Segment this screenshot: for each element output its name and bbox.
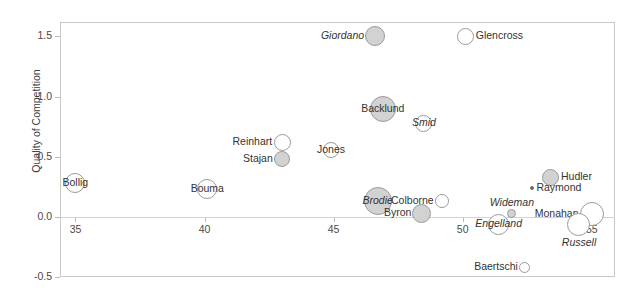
x-tick-label: 45 (314, 223, 354, 235)
point-label-baertschi: Baertschi (474, 261, 518, 272)
zero-gridline (60, 217, 615, 218)
point-label-engelland: Engelland (475, 218, 522, 229)
bubble-baertschi[interactable] (519, 262, 530, 273)
bubble-stajan[interactable] (274, 151, 290, 167)
y-tick-label: -0.5 (12, 270, 52, 282)
y-tick-mark (55, 97, 60, 98)
point-label-bollig: Bollig (62, 177, 88, 188)
y-tick-mark (55, 277, 60, 278)
point-label-bouma: Bouma (191, 183, 224, 194)
point-label-giordano: Giordano (321, 30, 364, 41)
point-label-glencross: Glencross (476, 30, 523, 41)
point-label-backlund: Backlund (361, 103, 404, 114)
y-tick-label: 0.5 (12, 150, 52, 162)
point-label-brodie: Brodie (363, 195, 393, 206)
y-tick-mark (55, 157, 60, 158)
bubble-byron[interactable] (412, 204, 431, 223)
y-axis-label: Quality of Competition (30, 41, 42, 201)
point-label-smid: Smid (412, 117, 436, 128)
point-label-jones: Jones (317, 144, 345, 155)
y-tick-label: 1.0 (12, 90, 52, 102)
point-label-wideman: Wideman (490, 197, 534, 208)
x-tick-label: 40 (185, 223, 225, 235)
bubble-reinhart[interactable] (274, 134, 291, 151)
bubble-glencross[interactable] (457, 28, 474, 45)
point-label-reinhart: Reinhart (233, 136, 273, 147)
point-label-russell: Russell (562, 237, 596, 248)
y-tick-label: 0.0 (12, 210, 52, 222)
x-tick-label: 35 (55, 223, 95, 235)
bubble-chart: Quality of Competition -0.50.00.51.01.5 … (0, 0, 619, 300)
y-tick-label: 1.5 (12, 29, 52, 41)
point-label-stajan: Stajan (243, 153, 273, 164)
point-label-colborne: Colborne (391, 195, 434, 206)
bubble-russell[interactable] (567, 213, 590, 236)
point-label-byron: Byron (384, 207, 411, 218)
y-tick-mark (55, 36, 60, 37)
point-label-raymond: Raymond (536, 182, 581, 193)
